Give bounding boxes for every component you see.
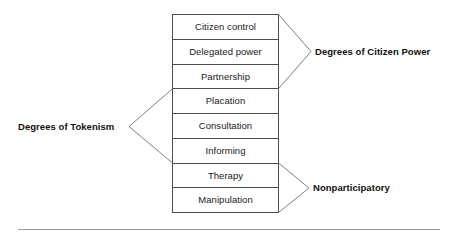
group-label-nonparticipatory: Nonparticipatory <box>313 183 390 193</box>
group-label-degrees-of-citizen-power: Degrees of Citizen Power <box>315 47 430 57</box>
ladder-rung-citizen-control: Citizen control <box>173 15 278 40</box>
ladder-rung-partnership: Partnership <box>173 64 278 89</box>
bracket-degrees-of-citizen-power <box>279 15 312 89</box>
group-label-degrees-of-tokenism: Degrees of Tokenism <box>18 122 114 132</box>
bracket-degrees-of-tokenism <box>129 89 173 163</box>
bracket-nonparticipatory <box>279 163 310 213</box>
ladder-rung-informing: Informing <box>173 138 278 163</box>
ladder-rung-therapy: Therapy <box>173 163 278 188</box>
ladder-rung-consultation: Consultation <box>173 114 278 139</box>
ladder-rung-placation: Placation <box>173 89 278 114</box>
ladder-rung-manipulation: Manipulation <box>173 188 278 213</box>
ladder-diagram: Citizen control Delegated power Partners… <box>0 0 458 235</box>
ladder-rung-delegated-power: Delegated power <box>173 39 278 64</box>
